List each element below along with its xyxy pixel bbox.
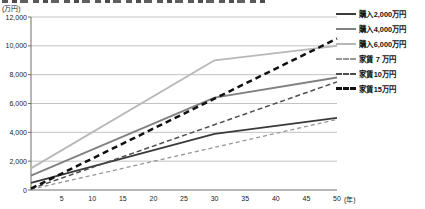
x-tick-label: 20 bbox=[150, 195, 158, 202]
x-tick-label: 25 bbox=[180, 195, 188, 202]
chart-screenshot: (万円) 02,0004,0006,0008,00010,00012,00051… bbox=[0, 0, 425, 209]
legend-item-0: 購入2,000万円 bbox=[336, 6, 425, 21]
series-line-5 bbox=[31, 39, 337, 189]
legend-item-1: 購入4,000万円 bbox=[336, 21, 425, 36]
series-line-3 bbox=[31, 119, 337, 189]
legend-item-5: 家賃15万円 bbox=[336, 81, 425, 96]
y-tick-label: 12,000 bbox=[6, 14, 28, 21]
x-tick-label: 45 bbox=[303, 195, 311, 202]
series-line-4 bbox=[31, 82, 337, 189]
x-tick-label: 50 bbox=[333, 195, 341, 202]
legend-line-sample bbox=[336, 73, 356, 75]
legend-line-sample bbox=[336, 87, 356, 90]
legend-item-4: 家賃10万円 bbox=[336, 66, 425, 81]
y-tick-label: 6,000 bbox=[9, 100, 27, 107]
chart-legend: 購入2,000万円購入4,000万円購入6,000万円家賃 7 万円家賃10万円… bbox=[336, 6, 425, 96]
legend-line-sample bbox=[336, 58, 356, 60]
legend-label: 購入2,000万円 bbox=[359, 8, 407, 19]
x-axis-unit-label: (年) bbox=[344, 194, 356, 204]
x-tick-label: 35 bbox=[241, 195, 249, 202]
legend-item-3: 家賃 7 万円 bbox=[336, 51, 425, 66]
legend-label: 家賃 7 万円 bbox=[359, 53, 397, 64]
x-tick-label: 30 bbox=[211, 195, 219, 202]
legend-item-2: 購入6,000万円 bbox=[336, 36, 425, 51]
x-tick-label: 40 bbox=[272, 195, 280, 202]
x-tick-label: 5 bbox=[60, 195, 64, 202]
series-line-2 bbox=[31, 46, 337, 169]
legend-line-sample bbox=[336, 43, 356, 45]
legend-line-sample bbox=[336, 28, 356, 30]
y-tick-label: 0 bbox=[23, 187, 27, 194]
y-tick-label: 4,000 bbox=[9, 129, 27, 136]
y-tick-label: 10,000 bbox=[6, 42, 28, 49]
y-tick-label: 8,000 bbox=[9, 71, 27, 78]
x-tick-label: 15 bbox=[119, 195, 127, 202]
legend-line-sample bbox=[336, 13, 356, 15]
x-tick-label: 10 bbox=[88, 195, 96, 202]
legend-label: 購入6,000万円 bbox=[359, 38, 407, 49]
legend-label: 家賃10万円 bbox=[359, 68, 397, 79]
legend-label: 家賃15万円 bbox=[359, 83, 397, 94]
legend-label: 購入4,000万円 bbox=[359, 23, 407, 34]
y-tick-label: 2,000 bbox=[9, 158, 27, 165]
